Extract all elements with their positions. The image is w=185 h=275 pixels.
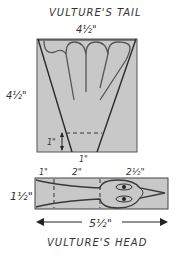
head-seg2-label: 2": [72, 167, 82, 177]
head-seg3-label: 2½": [126, 167, 145, 177]
tail-pattern: [37, 39, 137, 152]
arrow-right-icon: [160, 218, 168, 226]
head-total-width-label: 5½": [89, 217, 112, 230]
head-seg1-label: 1": [39, 168, 48, 177]
head-pattern: [35, 178, 168, 209]
pupil-icon: [122, 197, 126, 201]
head-rect: [35, 178, 168, 209]
tail-rect: [37, 39, 137, 152]
head-height-label: 1½": [10, 190, 33, 203]
tail-height-label: 4½": [6, 90, 27, 101]
pupil-icon: [122, 185, 126, 189]
pattern-diagram: VULTURE'S TAIL 4½" 4½" 1" 1" 1" 2" 2½": [0, 0, 185, 275]
tail-base-height-label: 1": [47, 138, 56, 147]
tail-width-label: 4½": [76, 24, 97, 35]
tail-title: VULTURE'S TAIL: [49, 7, 142, 18]
arrow-left-icon: [36, 218, 44, 226]
head-title: VULTURE'S HEAD: [47, 237, 147, 248]
tail-base-width-label: 1": [79, 155, 88, 164]
